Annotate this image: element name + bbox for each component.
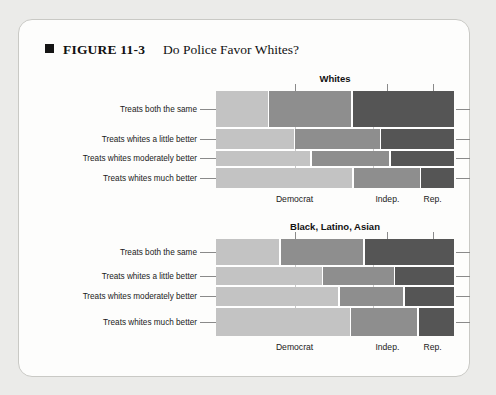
mosaic-cell-independent <box>281 239 363 265</box>
page-background: FIGURE 11-3 Do Police Favor Whites? Whit… <box>0 0 496 395</box>
x-axis-tick <box>387 232 388 239</box>
column-label-democrat: Democrat <box>276 194 313 204</box>
y-axis-tick <box>200 296 216 297</box>
mosaic-cell-republican <box>419 308 454 336</box>
row-label: Treats whites much better <box>103 317 197 326</box>
mosaic-cell-republican <box>395 267 454 284</box>
column-label-independent: Indep. <box>375 194 399 204</box>
y-axis-tick-right <box>456 296 470 297</box>
column-label-republican: Rep. <box>424 342 442 352</box>
mosaic-cell-republican <box>365 239 454 265</box>
mosaic-cell-independent <box>340 287 403 306</box>
mosaic-cell-republican <box>405 287 454 306</box>
y-axis-tick <box>200 252 216 253</box>
chart-subtitle: Black, Latino, Asian <box>216 221 454 232</box>
mosaic-plot-area <box>216 239 454 336</box>
mosaic-cell-democrat <box>216 308 350 336</box>
row-label: Treats whites a little better <box>102 272 197 281</box>
mosaic-cell-democrat <box>216 239 279 265</box>
y-axis-tick-right <box>456 276 470 277</box>
y-axis-tick <box>200 276 216 277</box>
column-label-democrat: Democrat <box>276 342 313 352</box>
row-label: Treats both the same <box>120 248 197 257</box>
mosaic-cell-independent <box>351 308 417 336</box>
figure-card: FIGURE 11-3 Do Police Favor Whites? Whit… <box>18 19 470 377</box>
column-label-independent: Indep. <box>375 342 399 352</box>
chart-panel-black-latino-asian: Black, Latino, AsianTreats both the same… <box>19 20 471 180</box>
mosaic-cell-democrat <box>216 287 338 306</box>
y-axis-tick-right <box>456 322 470 323</box>
mosaic-cell-democrat <box>216 267 322 284</box>
x-axis-tick <box>295 232 296 239</box>
mosaic-cell-independent <box>323 267 394 284</box>
y-axis-tick-right <box>456 252 470 253</box>
row-label: Treats whites moderately better <box>83 292 197 301</box>
y-axis-tick <box>200 322 216 323</box>
column-label-republican: Rep. <box>424 194 442 204</box>
x-axis-tick <box>433 232 434 239</box>
